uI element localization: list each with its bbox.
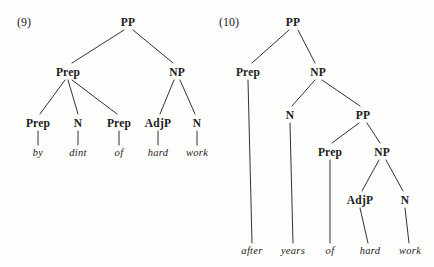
tree-terminal-word: of [115,147,124,158]
tree-node-adjp: AdjP [347,194,373,206]
tree-edge [252,30,289,63]
tree-node-np: NP [169,66,185,78]
tree-node-prep: Prep [107,117,131,129]
tree-terminal-word: work [399,245,421,256]
tree-node-n: N [74,117,83,129]
tree-edge [298,30,315,63]
tree-edge [160,80,174,114]
tree-terminal-word: dint [69,147,87,158]
tree-branch-lines [0,0,434,267]
tree-terminal-word: hard [148,147,169,158]
tree-terminal-word: of [326,245,335,256]
tree-node-n: N [401,194,410,206]
tree-edge [72,30,124,63]
tree-edge [360,208,368,243]
tree-node-prep: Prep [26,117,50,129]
tree-edge [290,123,293,243]
tree-node-pp: PP [286,16,300,28]
tree-edge [72,80,117,114]
tree-node-adjp: AdjP [145,117,171,129]
tree-edge [133,30,173,63]
tree-node-pp: PP [121,16,135,28]
tree-node-prep: Prep [318,146,342,158]
tree-edge [68,80,78,114]
tree-terminal-word: by [33,147,44,158]
tree-node-np: NP [374,146,390,158]
tree-edge [362,160,379,191]
tree-node-prep: Prep [236,66,260,78]
tree-edge [332,123,359,143]
tree-edge [248,80,252,243]
tree-edge [386,160,403,191]
tree-node-pp: PP [356,109,370,121]
tree-node-prep: Prep [56,66,80,78]
tree-node-np: NP [310,66,326,78]
tree-edge [292,80,315,106]
example-number: (10) [219,15,239,30]
tree-edge [405,208,409,243]
tree-edge [322,80,360,106]
tree-edge [180,80,195,114]
tree-terminal-word: years [281,245,305,256]
tree-terminal-word: after [241,245,262,256]
tree-node-n: N [193,117,202,129]
tree-edge [40,80,65,114]
tree-terminal-word: hard [360,245,381,256]
example-number: (9) [17,15,31,30]
syntax-tree-figure: (9)PPPrepNPPrepNPrepAdjPNbydintofhardwor… [0,0,434,267]
tree-node-n: N [286,109,295,121]
tree-terminal-word: work [186,147,208,158]
tree-edge [367,123,380,143]
